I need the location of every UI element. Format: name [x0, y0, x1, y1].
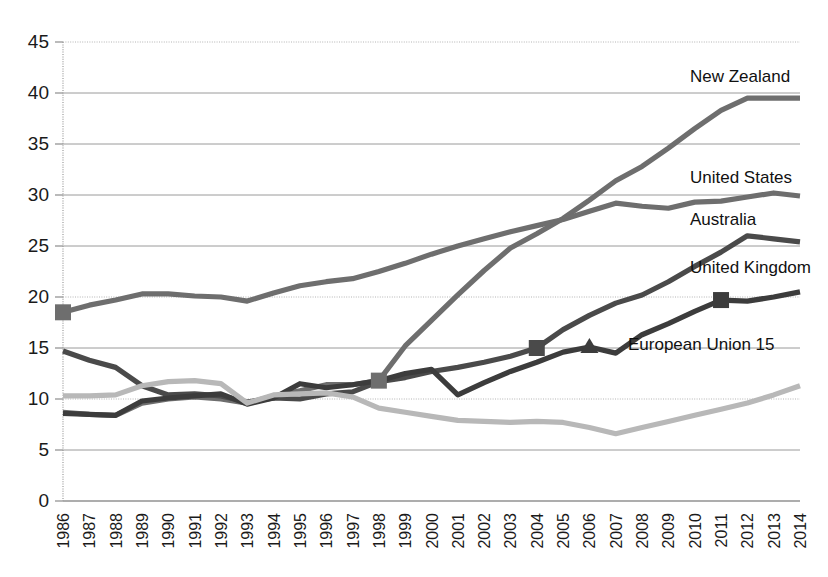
x-axis-tick-label: 2008 [634, 513, 651, 549]
x-axis-tick-label: 2013 [766, 513, 783, 549]
x-axis-tick-labels: 1986198719881989199019911992199319941995… [55, 513, 809, 549]
x-axis-tick-label: 1989 [134, 513, 151, 549]
series-label: United Kingdom [690, 258, 811, 277]
x-axis-tick-label: 1986 [55, 513, 72, 549]
series-label: United States [690, 168, 792, 187]
data-point-marker [529, 340, 545, 356]
series-label: Australia [690, 210, 757, 229]
x-axis-tick-label: 2012 [739, 513, 756, 549]
x-axis-tick-label: 2001 [450, 513, 467, 549]
x-axis-tick-label: 2011 [713, 513, 730, 548]
data-point-marker [713, 292, 729, 308]
x-axis-tick-label: 1997 [345, 513, 362, 549]
y-axis-tick-label: 25 [28, 235, 49, 256]
x-axis-tick-label: 2007 [608, 513, 625, 549]
y-axis-tick-label: 15 [28, 337, 49, 358]
x-axis-tick-label: 1998 [371, 513, 388, 549]
x-axis-tick-label: 1987 [81, 513, 98, 549]
x-axis-tick-label: 1994 [266, 513, 283, 549]
series-line [63, 381, 800, 434]
x-axis-tick-label: 2000 [424, 513, 441, 549]
y-axis-tick-label: 40 [28, 82, 49, 103]
x-axis-tick-label: 1991 [187, 513, 204, 549]
x-axis-tick-label: 2006 [581, 513, 598, 549]
y-axis-tick-labels: 051015202530354045 [28, 31, 49, 511]
x-axis-tick-label: 2009 [660, 513, 677, 549]
data-point-marker [371, 373, 387, 389]
x-axis-tick-label: 1988 [108, 513, 125, 549]
series-label: New Zealand [690, 67, 790, 86]
x-axis-tick-label: 1999 [397, 513, 414, 549]
chart-canvas: 051015202530354045 198619871988198919901… [0, 0, 828, 577]
x-axis-tick-label: 2010 [687, 513, 704, 549]
y-axis-tick-label: 30 [28, 184, 49, 205]
x-axis-tick-label: 1993 [239, 513, 256, 549]
data-point-marker [55, 304, 71, 320]
x-axis-tick-label: 2003 [502, 513, 519, 549]
x-axis-tick-label: 1992 [213, 513, 230, 549]
data-point-marker [580, 338, 598, 353]
x-axis-tick-label: 1995 [292, 513, 309, 549]
x-axis-tick-label: 2004 [529, 513, 546, 549]
x-axis-tick-label: 2014 [792, 513, 809, 549]
series-label: European Union 15 [628, 335, 775, 354]
x-axis-tick-label: 2005 [555, 513, 572, 549]
y-axis-tick-label: 0 [38, 490, 49, 511]
x-axis-tick-label: 1996 [318, 513, 335, 549]
y-axis-tick-label: 35 [28, 133, 49, 154]
line-chart: 051015202530354045 198619871988198919901… [0, 0, 828, 577]
y-axis-tick-label: 10 [28, 388, 49, 409]
y-axis-tick-label: 20 [28, 286, 49, 307]
y-axis-tick-label: 45 [28, 31, 49, 52]
y-axis-tick-label: 5 [38, 439, 49, 460]
x-axis-tick-label: 2002 [476, 513, 493, 549]
x-axis-tick-label: 1990 [160, 513, 177, 549]
